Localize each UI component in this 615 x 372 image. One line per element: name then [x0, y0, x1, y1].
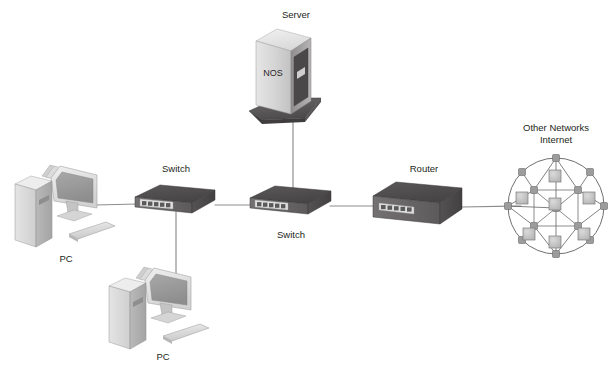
router-label: Router [410, 163, 439, 174]
cloud-label-line2: Internet [540, 134, 573, 145]
cloud-label-line1: Other Networks [523, 122, 589, 133]
server-drive-bay [294, 48, 308, 106]
switch-middle-label: Switch [277, 229, 305, 240]
node-router[interactable] [373, 182, 462, 224]
diagram-canvas: NOS Server PC P [0, 0, 615, 372]
node-server[interactable]: NOS [249, 29, 321, 124]
pc-left-case-front [15, 184, 36, 247]
pc-bottom-case-front [109, 286, 130, 349]
server-label: Server [282, 9, 310, 20]
network-diagram: NOS Server PC P [0, 0, 615, 372]
pc-bottom-label: PC [156, 351, 169, 362]
node-pc-left[interactable] [15, 165, 115, 247]
pc-bottom-case-side [130, 283, 146, 349]
node-switch-middle[interactable] [250, 186, 331, 214]
pc-left-keyboard [69, 222, 115, 239]
pc-left-monitor-foot [57, 210, 92, 221]
server-nos-label: NOS [263, 68, 283, 78]
node-switch-left[interactable] [135, 185, 215, 213]
pc-bottom-monitor-foot [151, 312, 186, 323]
pc-bottom-keyboard [163, 324, 209, 341]
pc-left-label: PC [59, 253, 72, 264]
switch-left-label: Switch [162, 163, 190, 174]
pc-left-case-side [36, 181, 52, 247]
node-pc-bottom[interactable] [109, 267, 209, 349]
